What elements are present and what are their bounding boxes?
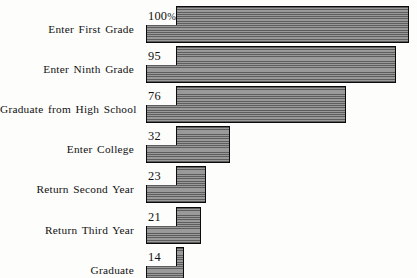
bar-value-label: 76 xyxy=(148,87,161,105)
bar-upper-segment xyxy=(176,126,230,146)
bar-value-label: 23 xyxy=(148,167,161,185)
bar-value-number: 21 xyxy=(148,210,161,224)
bar-value-number: 95 xyxy=(148,49,161,63)
bar-upper-segment xyxy=(176,6,409,26)
bar-row: Graduate14 xyxy=(0,247,417,278)
bar-lower-segment xyxy=(146,226,201,244)
bar-value-label: 32 xyxy=(148,127,161,145)
bar-lower-segment xyxy=(146,65,396,83)
bar-value-number: 23 xyxy=(148,169,161,183)
category-label: Return Third Year xyxy=(0,224,134,237)
bar-upper-segment xyxy=(176,46,396,66)
bar-value-label: 21 xyxy=(148,208,161,226)
category-label: Graduate xyxy=(0,264,134,277)
bar-row: Return Third Year21 xyxy=(0,207,417,244)
attainment-funnel-chart: Enter First Grade100%Enter Ninth Grade95… xyxy=(0,0,417,278)
category-label: Enter First Grade xyxy=(0,23,134,36)
bar-row: Return Second Year23 xyxy=(0,166,417,203)
percent-sign: % xyxy=(167,11,176,22)
bar xyxy=(146,46,396,83)
bar-value-number: 100 xyxy=(148,9,167,23)
bar-row: Enter First Grade100% xyxy=(0,6,417,43)
category-label: Enter College xyxy=(0,143,134,156)
bar-value-label: 100% xyxy=(148,7,176,25)
bar-lower-segment xyxy=(146,266,184,278)
bar-upper-segment xyxy=(176,207,201,227)
bar-lower-segment xyxy=(146,105,346,123)
bar-value-number: 14 xyxy=(148,250,161,264)
bar xyxy=(146,86,346,123)
category-label: Return Second Year xyxy=(0,183,134,196)
bar-row: Graduate from High School76 xyxy=(0,86,417,123)
bar-lower-segment xyxy=(146,25,409,43)
bar-upper-segment xyxy=(176,86,346,106)
bar-upper-segment xyxy=(176,166,206,186)
bar-upper-segment xyxy=(176,247,184,267)
bar-lower-segment xyxy=(146,145,230,163)
category-label: Graduate from High School xyxy=(0,103,134,116)
bar-value-label: 95 xyxy=(148,47,161,65)
bar-value-number: 32 xyxy=(148,129,161,143)
bar-row: Enter College32 xyxy=(0,126,417,163)
bar xyxy=(146,6,409,43)
category-label: Enter Ninth Grade xyxy=(0,63,134,76)
bar-row: Enter Ninth Grade95 xyxy=(0,46,417,83)
bar-value-number: 76 xyxy=(148,89,161,103)
bar-value-label: 14 xyxy=(148,248,161,266)
bar-lower-segment xyxy=(146,185,206,203)
